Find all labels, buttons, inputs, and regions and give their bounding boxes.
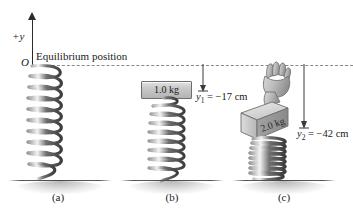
axis-positive-label: +y bbox=[12, 30, 24, 42]
measurement-y2: y2 = −42 cm bbox=[297, 128, 348, 142]
panel-caption-c: (c) bbox=[264, 191, 304, 203]
measure-arrow-y2 bbox=[297, 64, 311, 130]
measure-arrow-y1 bbox=[196, 64, 210, 92]
spring-stretched bbox=[140, 96, 202, 184]
panel-caption-a: (a) bbox=[38, 191, 78, 203]
physics-figure: +y O Equilibrium position (a) bbox=[0, 0, 353, 218]
block-1kg-label: 1.0 kg bbox=[142, 82, 191, 97]
spring-compressed-icon bbox=[243, 136, 303, 184]
panel-caption-b: (b) bbox=[152, 191, 192, 203]
y-axis-line bbox=[32, 18, 33, 66]
spring-relaxed bbox=[14, 64, 80, 184]
measurement-y2-value: = −42 cm bbox=[308, 128, 348, 139]
block-2kg: 2.0 kg bbox=[238, 99, 300, 141]
equilibrium-label: Equilibrium position bbox=[36, 50, 127, 62]
